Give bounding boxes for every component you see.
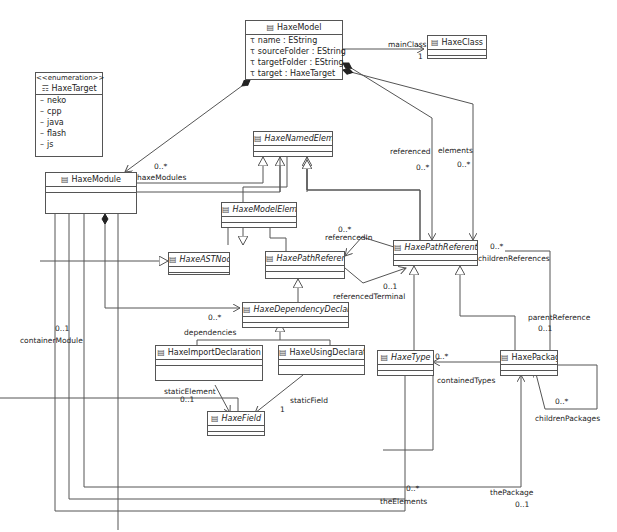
label-referenced-in: referencedIn bbox=[325, 233, 373, 242]
class-icon: ▤ bbox=[501, 351, 509, 364]
label-children-references: childrenReferences bbox=[478, 254, 550, 263]
class-icon: ▤ bbox=[267, 21, 275, 34]
label-parent-reference: parentReference bbox=[528, 313, 590, 322]
label-children-references-mult: 0..* bbox=[490, 242, 503, 251]
label-referenced-mult: 0..* bbox=[416, 163, 429, 172]
class-icon: ▤ bbox=[254, 132, 262, 145]
attributes-section: τname : EString τsourceFolder : EString … bbox=[246, 35, 342, 80]
attribute-icon: τ bbox=[250, 68, 255, 79]
enum-icon: ☶ bbox=[41, 83, 48, 94]
operations-section bbox=[246, 80, 342, 85]
class-icon: ▤ bbox=[243, 303, 251, 316]
attribute-icon: τ bbox=[250, 35, 255, 46]
label-contained-types-mult: 0..* bbox=[435, 352, 448, 361]
attribute-icon: τ bbox=[250, 46, 255, 57]
label-static-element-mult: 0..1 bbox=[180, 395, 194, 404]
label-referenced: referenced bbox=[390, 147, 431, 156]
label-elements-mult: 0..* bbox=[457, 160, 470, 169]
attribute: τtarget : HaxeTarget bbox=[246, 68, 342, 79]
class-haxe-model[interactable]: ▤HaxeModel τname : EString τsourceFolder… bbox=[245, 20, 343, 80]
attribute: τsourceFolder : EString bbox=[246, 46, 342, 57]
class-haxe-package[interactable]: ▤HaxePackage bbox=[500, 350, 558, 376]
class-icon: ▤ bbox=[380, 351, 388, 364]
label-static-field-mult: 1 bbox=[280, 405, 285, 414]
class-haxe-ast-node[interactable]: ▤HaxeASTNode bbox=[168, 252, 230, 275]
class-haxe-import-declaration[interactable]: ▤HaxeImportDeclaration bbox=[155, 345, 263, 381]
class-haxe-dependency-declaration[interactable]: ▤HaxeDependencyDeclaration bbox=[242, 302, 349, 328]
label-children-packages-mult: 0..* bbox=[555, 397, 568, 406]
class-icon: ▤ bbox=[431, 36, 439, 49]
class-haxe-field[interactable]: ▤HaxeField bbox=[207, 411, 265, 436]
label-referenced-terminal-mult: 0..1 bbox=[383, 282, 397, 291]
class-icon: ▤ bbox=[211, 412, 219, 425]
class-haxe-class[interactable]: ▤HaxeClass bbox=[427, 35, 487, 59]
enum-literal: –js bbox=[36, 139, 102, 150]
class-haxe-type[interactable]: ▤HaxeType bbox=[377, 350, 434, 376]
label-dependencies: dependencies bbox=[184, 328, 236, 337]
class-haxe-using-declaration[interactable]: ▤HaxeUsingDeclaration bbox=[278, 345, 365, 375]
diagram-canvas: ▤HaxeModel τname : EString τsourceFolder… bbox=[0, 0, 617, 532]
label-referenced-terminal: referencedTerminal bbox=[333, 292, 405, 301]
attribute-icon: τ bbox=[250, 57, 255, 68]
stereotype: <<enumeration>> bbox=[36, 73, 102, 83]
enum-haxe-target[interactable]: <<enumeration>> ☶HaxeTarget –neko –cpp –… bbox=[35, 72, 103, 157]
class-haxe-module[interactable]: ▤HaxeModule bbox=[45, 172, 137, 214]
class-name: HaxeModel bbox=[277, 23, 321, 32]
label-container-module: containerModule bbox=[20, 336, 83, 345]
enum-literal: –flash bbox=[36, 128, 102, 139]
label-children-packages: childrenPackages bbox=[535, 414, 600, 423]
label-elements: elements bbox=[438, 146, 473, 155]
class-haxe-model-element[interactable]: ▤HaxeModelElement bbox=[221, 202, 297, 228]
label-main-class: mainClass bbox=[388, 40, 426, 49]
label-dependencies-mult: 0..* bbox=[208, 313, 221, 322]
literals-section: –neko –cpp –java –flash –js bbox=[36, 95, 102, 150]
class-haxe-named-element[interactable]: ▤HaxeNamedElement bbox=[253, 131, 333, 157]
label-static-field: staticField bbox=[290, 396, 328, 405]
label-contained-types: containedTypes bbox=[437, 376, 495, 385]
label-main-class-mult: 1 bbox=[418, 52, 423, 61]
attribute: τname : EString bbox=[246, 35, 342, 46]
enum-literal: –neko bbox=[36, 95, 102, 106]
enum-literal: –java bbox=[36, 117, 102, 128]
label-haxe-modules: haxeModules bbox=[137, 173, 186, 182]
enum-literal: –cpp bbox=[36, 106, 102, 117]
label-parent-reference-mult: 0..1 bbox=[538, 324, 552, 333]
class-icon: ▤ bbox=[157, 346, 165, 359]
class-icon: ▤ bbox=[266, 252, 274, 265]
class-haxe-path-referentiable[interactable]: ▤HaxePathReferentiable bbox=[393, 240, 478, 266]
label-the-elements-mult: 0..* bbox=[406, 484, 419, 493]
label-container-module-mult: 0..1 bbox=[55, 324, 69, 333]
class-icon: ▤ bbox=[61, 173, 69, 186]
label-the-elements: theElements bbox=[380, 497, 427, 506]
class-icon: ▤ bbox=[169, 253, 177, 266]
class-icon: ▤ bbox=[222, 203, 230, 216]
label-the-package-mult: 0..1 bbox=[515, 500, 529, 509]
attribute: τtargetFolder : EString bbox=[246, 57, 342, 68]
label-haxe-modules-mult: 0..* bbox=[154, 162, 167, 171]
class-icon: ▤ bbox=[394, 241, 402, 254]
label-the-package: thePackage bbox=[490, 488, 533, 497]
class-icon: ▤ bbox=[279, 346, 287, 359]
class-haxe-path-reference[interactable]: ▤HaxePathReference bbox=[265, 251, 345, 279]
